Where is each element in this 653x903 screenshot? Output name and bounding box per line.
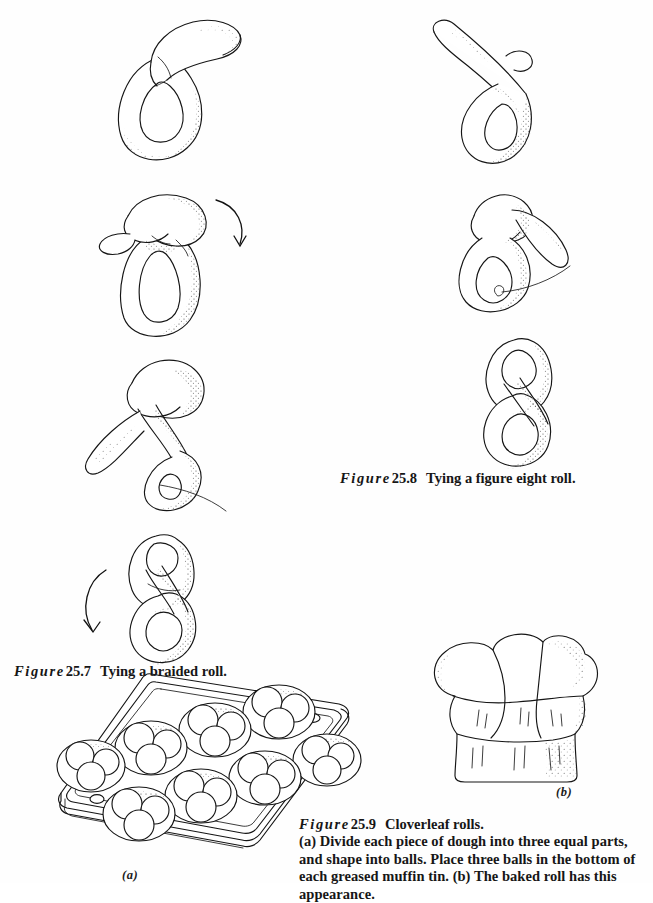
dough-rope-finished-braid-drawing <box>62 518 277 668</box>
curved-arrow-down-right <box>216 200 242 244</box>
dough-rope-second-tuck-drawing <box>60 345 280 510</box>
muffin-cup <box>57 740 125 792</box>
dough-rope-single-loop-drawing <box>95 8 275 173</box>
figure-eight-rope-loop-drawing <box>420 8 610 173</box>
figure-25-7-caption: Figure25.7Tying a braided roll. <box>14 663 227 680</box>
figure-25-7-step-2 <box>88 178 273 343</box>
muffin-cup <box>179 703 251 757</box>
muffin-cup <box>229 751 301 805</box>
figure-title: Tying a braided roll. <box>91 663 227 679</box>
arrow-head <box>84 620 100 632</box>
panel-label-a: (a) <box>122 868 138 883</box>
figure-25-9-caption: Figure25.9Cloverleaf rolls. (a) Divide e… <box>299 816 651 903</box>
figure-25-8-step-2 <box>440 182 630 327</box>
figure-25-8-step-1 <box>420 8 610 173</box>
figure-25-9-baked-roll <box>425 622 610 797</box>
muffin-cup <box>103 787 175 841</box>
tin-hole-left <box>90 795 104 804</box>
figure-25-9-description: (a) Divide each piece of dough into thre… <box>299 833 651 903</box>
figure-word: Figure <box>14 663 66 679</box>
curved-arrow-down-left <box>86 570 106 630</box>
figure-25-7-step-4 <box>62 518 277 668</box>
figure-number: 25.9 <box>351 816 376 832</box>
muffin-cup <box>165 769 237 823</box>
figure-title: Tying a figure eight roll. <box>417 470 575 486</box>
figure-eight-finished-roll-drawing <box>462 328 622 473</box>
figure-number: 25.7 <box>66 663 91 679</box>
muffin-cup <box>243 685 315 739</box>
figure-word: Figure <box>299 816 351 832</box>
figure-title: Cloverleaf rolls. <box>376 816 484 832</box>
muffin-cup <box>293 734 361 786</box>
figure-eight-end-through-loop-drawing <box>440 182 630 327</box>
figure-number: 25.8 <box>392 470 417 486</box>
figure-25-8-step-3 <box>462 328 622 473</box>
muffin-cup <box>115 721 187 775</box>
panel-label-b: (b) <box>556 785 572 800</box>
dough-rope-loop-pulled-through-drawing <box>88 178 273 343</box>
baked-cloverleaf-roll-drawing <box>425 622 610 797</box>
figure-25-7-step-3 <box>60 345 280 510</box>
figure-25-8-caption: Figure25.8Tying a figure eight roll. <box>340 470 576 487</box>
figure-word: Figure <box>340 470 392 486</box>
figure-25-7-step-1 <box>95 8 275 173</box>
